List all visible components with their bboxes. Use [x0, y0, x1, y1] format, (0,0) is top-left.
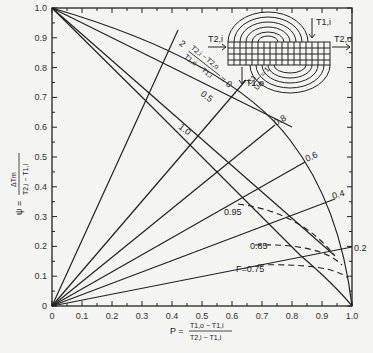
y-tick-labels: 00.10.20.30.40.50.60.70.80.91.0	[34, 3, 47, 311]
y-tick-label: 0.7	[34, 92, 47, 102]
x-tick-label: 0.7	[256, 311, 269, 321]
f075-label: F=0.75	[236, 264, 264, 274]
x-tick-label: 0.3	[136, 311, 149, 321]
f085-curve	[255, 245, 342, 265]
y-tick-label: 0.8	[34, 63, 47, 73]
x-tick-label: 0.6	[226, 311, 239, 321]
x-tick-label: 0.4	[166, 311, 179, 321]
r2-label: 2	[177, 38, 187, 49]
label-t1i: T1,i	[316, 17, 331, 27]
x-axis-label: P = T1,o − T1,i T2,i − T1,i	[170, 322, 232, 341]
ntu02-label: 0.2	[354, 243, 367, 253]
f085-label: 0.85	[250, 241, 268, 251]
r-expr-eq: = 0	[218, 74, 234, 90]
y-tick-label: 0.5	[34, 152, 47, 162]
x-tick-label: 0	[49, 311, 54, 321]
svg-text:T2,i − T1,i: T2,i − T1,i	[22, 163, 29, 195]
y-tick-label: 0	[42, 301, 47, 311]
svg-text:P =: P =	[170, 326, 184, 336]
x-tick-label: 0.1	[76, 311, 89, 321]
y-tick-label: 0.6	[34, 122, 47, 132]
svg-text:ΔTm: ΔTm	[10, 172, 17, 187]
ntu04-ray	[52, 199, 335, 306]
ntu04-label: 0.4	[331, 188, 346, 201]
y-tick-label: 0.3	[34, 212, 47, 222]
svg-text:ψ =: ψ =	[14, 201, 24, 215]
x-tick-label: 0.2	[106, 311, 119, 321]
label-t2o: T2,o	[334, 34, 352, 44]
x-tick-label: 0.5	[196, 311, 209, 321]
x-tick-labels: 00.10.20.30.40.50.60.70.80.91.0	[49, 311, 358, 321]
y-axis-label: ψ = ΔTm T2,i − T1,i	[10, 153, 29, 215]
ntu06-label: 0.6	[304, 149, 320, 163]
ntu02-ray	[52, 247, 352, 306]
chart: 00.10.20.30.40.50.60.70.80.91.0 00.10.20…	[0, 0, 373, 353]
f095-label: 0.95	[224, 207, 242, 217]
y-tick-label: 0.2	[34, 241, 47, 251]
x-tick-label: 0.8	[286, 311, 299, 321]
label-t2i: T2,i	[208, 34, 223, 44]
svg-text:T2,i − T1,i: T2,i − T1,i	[190, 334, 222, 341]
ntu06-ray	[52, 162, 305, 306]
svg-text:T1,o − T1,i: T1,o − T1,i	[190, 322, 224, 329]
ntu1-ray	[52, 80, 246, 306]
ntu08-ray	[52, 125, 275, 306]
y-tick-label: 0.1	[34, 271, 47, 281]
x-tick-label: 0.9	[316, 311, 329, 321]
r2-ray	[52, 30, 178, 306]
y-tick-label: 0.9	[34, 33, 47, 43]
x-tick-label: 1.0	[346, 311, 359, 321]
y-tick-label: 0.4	[34, 182, 47, 192]
r05-label: 0.5	[199, 89, 215, 105]
f075-curve	[258, 265, 348, 278]
y-tick-label: 1.0	[34, 3, 47, 13]
